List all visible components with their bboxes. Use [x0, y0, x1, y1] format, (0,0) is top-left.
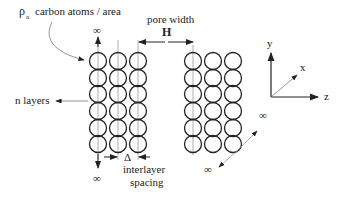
infinity-x-far: ∞: [259, 109, 267, 121]
axis-x-label: x: [300, 61, 306, 73]
x-infinity-arrow-down: [219, 150, 238, 167]
density-symbol: ρ: [19, 4, 25, 18]
density-subscript: a: [26, 13, 30, 21]
axis-z-label: z: [324, 90, 329, 102]
axis-y-label: y: [267, 37, 273, 49]
density-label: carbon atoms / area: [35, 5, 121, 17]
slit-pore-diagram: ρ a carbon atoms / area ∞ pore width H n…: [0, 0, 343, 201]
diagram-svg: ρ a carbon atoms / area ∞ pore width H n…: [0, 0, 343, 201]
pore-width-label: pore width: [147, 13, 195, 25]
spacing-label: spacing: [130, 176, 164, 188]
infinity-top: ∞: [93, 24, 101, 36]
interlayer-label: interlayer: [123, 163, 165, 175]
infinity-x-near: ∞: [204, 163, 212, 175]
pore-width-symbol: H: [162, 25, 172, 39]
density-arrow: [49, 22, 84, 60]
n-layers-label: n layers: [15, 94, 50, 106]
coordinate-axes: y x z: [267, 37, 329, 102]
delta-symbol: Δ: [124, 151, 131, 163]
infinity-bottom: ∞: [93, 172, 101, 184]
